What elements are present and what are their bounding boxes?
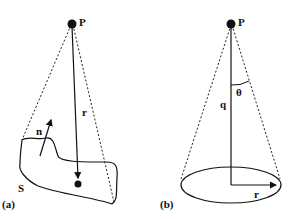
surface-s [20,138,118,204]
vector-r [72,26,78,178]
surface-point-dot [75,181,82,188]
angle-theta-label: θ [236,86,242,98]
point-p-label: P [79,16,86,28]
angle-arc [231,81,249,85]
surface-s-label: S [18,182,24,194]
point-p-label: P [238,16,245,28]
normal-n-label: n [36,125,42,137]
radius-r-label: r [254,188,259,200]
cone-edge-left [22,25,71,140]
axis-q-label: q [220,98,227,110]
vector-r-label: r [82,106,87,118]
panel-b: P q θ r (b) [160,16,281,211]
panel-a: P r n S (a) [2,16,117,211]
figure: P r n S (a) P q θ r (b) [0,0,291,219]
cone-edge-right [73,25,114,202]
cone-edge-right [232,25,280,179]
caption-b: (b) [160,198,174,211]
caption-a: (a) [2,198,15,211]
